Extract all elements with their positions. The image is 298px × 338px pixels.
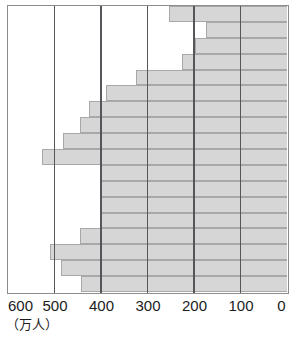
x-tick-label-500: 500 [42,296,67,316]
bar-row-1 [169,6,287,22]
bar-row-10 [42,149,287,165]
gridline-300 [147,6,149,293]
bar-row-2 [206,22,287,38]
bar-row-4 [182,54,287,70]
x-tick-label-0: 0 [277,296,285,316]
x-axis: 6005004003002001000 [0,296,298,318]
gridline-100 [240,6,242,293]
bar-row-15 [80,228,287,244]
bar-row-18 [81,276,287,292]
bar-row-7 [89,101,287,117]
x-tick-label-300: 300 [135,296,160,316]
axis-unit-label: （万人） [6,316,58,334]
x-tick-label-400: 400 [89,296,114,316]
x-tick-label-100: 100 [228,296,253,316]
bar-row-17 [61,260,287,276]
gridline-200 [193,6,195,293]
bar-row-6 [106,85,287,101]
x-tick-label-600: 600 [8,296,33,316]
gridline-400 [100,6,102,293]
bar-row-9 [63,133,287,149]
x-tick-label-200: 200 [182,296,207,316]
bar-row-5 [136,70,287,86]
population-bar-chart: 6005004003002001000 （万人） [0,0,298,338]
plot-area [7,5,289,294]
bar-row-8 [80,117,287,133]
bar-row-16 [50,244,287,260]
gridline-500 [54,6,56,293]
